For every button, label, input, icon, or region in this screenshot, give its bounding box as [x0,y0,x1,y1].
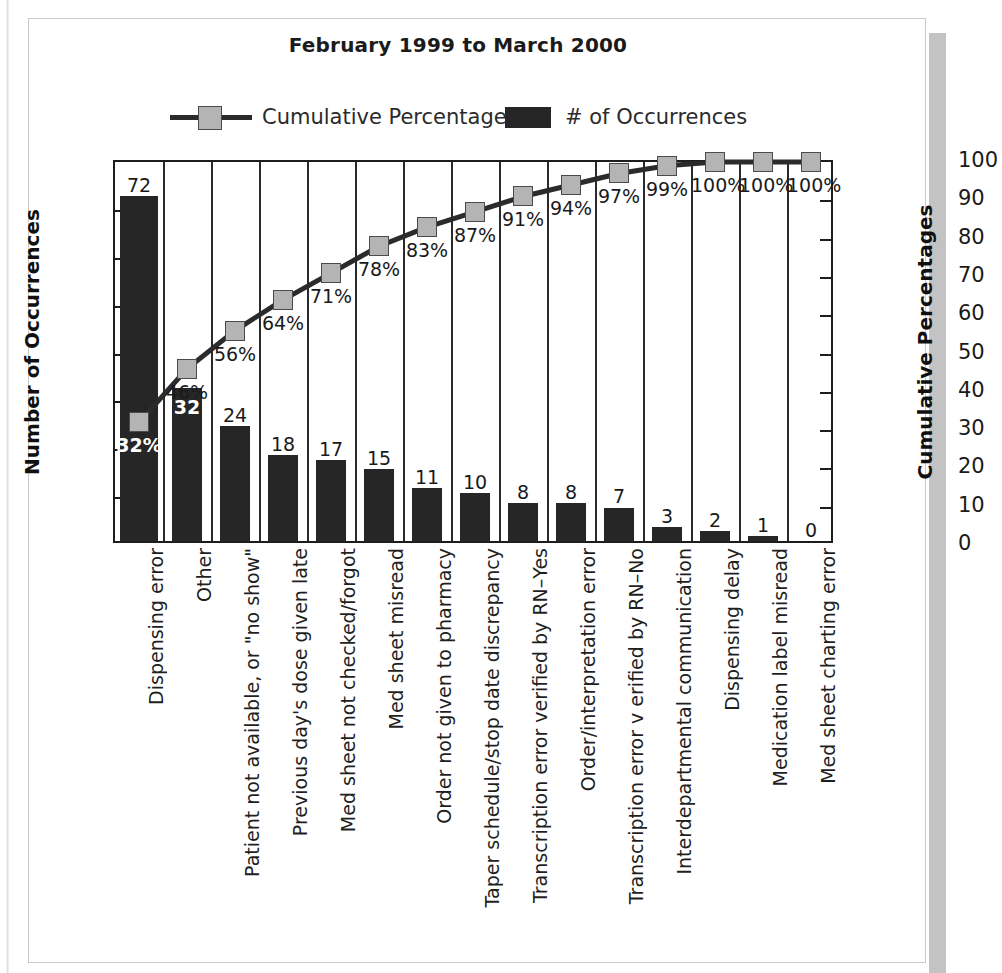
cumulative-marker [465,202,485,222]
cumulative-marker [321,263,341,283]
legend-item-cumulative: Cumulative Percentage [170,100,507,134]
legend-item-occurrences: # of Occurrences [505,100,747,134]
x-axis-category-label: Taper schedule/stop date discrepancy [481,548,503,907]
x-axis-category-label: Interdepartmental communication [673,548,695,875]
cumulative-percent-label: 64% [259,312,307,334]
cumulative-percent-label: 56% [211,343,259,365]
y-axis-tick-label-right: 40 [958,378,1002,402]
chart-legend: Cumulative Percentage # of Occurrences [150,100,770,134]
bar-swatch-icon [505,107,551,128]
square-marker-icon [198,106,222,130]
cumulative-percent-label: 100% [739,174,787,196]
cumulative-marker [657,156,677,176]
cumulative-marker [417,217,437,237]
legend-label-cumulative: Cumulative Percentage [262,105,507,129]
cumulative-marker [753,152,773,172]
x-axis-category-label: Order/interpretation error [577,548,599,791]
scan-edge-artifact [6,0,9,973]
cumulative-marker [513,186,533,206]
y-axis-tick-label-right: 90 [958,186,1002,210]
x-axis-category-label: Order not given to pharmacy [433,548,455,824]
y-axis-tick-label-right: 30 [958,416,1002,440]
y-axis-title-right: Cumulative Percentages [913,192,937,492]
y-axis-tick-label-right: 100 [958,148,1002,172]
x-axis-category-label: Med sheet not checked/forgot [337,548,359,832]
cumulative-marker [225,321,245,341]
x-axis-category-label: Medication label misread [769,548,791,786]
x-axis-category-label: Other [193,548,215,602]
y-axis-tick-label-right: 70 [958,263,1002,287]
cumulative-marker [273,290,293,310]
y-axis-tick-label-right: 50 [958,340,1002,364]
y-axis-tick-label-right: 10 [958,493,1002,517]
cumulative-percent-label: 91% [499,208,547,230]
plot-area: 8070605040302010010090807060504030201007… [113,160,833,543]
y-axis-tick-label-right: 80 [958,225,1002,249]
x-axis-category-label: Transcription error verified by RN–Yes [529,548,551,903]
cumulative-percent-label: 32% [115,434,163,456]
cumulative-marker [705,152,725,172]
page-title: February 1999 to March 2000 [28,33,888,57]
cumulative-percent-label: 46% [163,381,211,403]
y-axis-tick-label-right: 0 [958,531,1002,555]
page-shadow-right [929,33,946,973]
x-axis-category-label: Previous day's dose given late [289,548,311,836]
cumulative-percent-label: 100% [787,174,835,196]
cumulative-percent-label: 97% [595,185,643,207]
cumulative-percent-label: 78% [355,258,403,280]
x-axis-category-labels: Dispensing errorOtherPatient not availab… [113,548,833,948]
x-axis-category-label: Patient not available, or "no show" [241,548,263,877]
line-marker-icon [170,112,252,122]
x-axis-category-label: Med sheet misread [385,548,407,729]
x-axis-category-label: Dispensing delay [721,548,743,711]
cumulative-percent-label: 94% [547,197,595,219]
cumulative-percent-label: 83% [403,239,451,261]
y-axis-tick-label-right: 60 [958,301,1002,325]
cumulative-marker [609,163,629,183]
legend-label-occurrences: # of Occurrences [565,105,747,129]
cumulative-percent-label: 87% [451,224,499,246]
x-axis-category-label: Med sheet charting error [817,548,839,784]
cumulative-marker [177,359,197,379]
cumulative-percent-label: 71% [307,285,355,307]
cumulative-marker [801,152,821,172]
cumulative-marker [369,236,389,256]
x-axis-category-label: Dispensing error [145,548,167,705]
y-axis-title-left: Number of Occurrences [20,192,44,492]
cumulative-percent-label: 100% [691,174,739,196]
cumulative-marker [561,175,581,195]
cumulative-percent-label: 99% [643,178,691,200]
y-axis-tick-label-right: 20 [958,454,1002,478]
cumulative-marker [129,412,149,432]
x-axis-category-label: Transcription error v erified by RN–No [625,548,647,904]
